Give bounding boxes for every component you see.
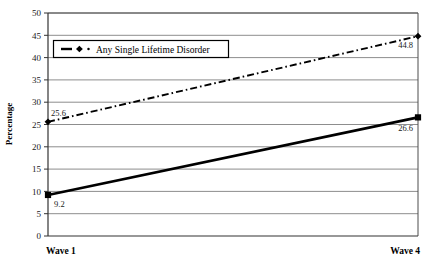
chart-canvas: 05101520253035404550 Percentage 25.6 44.…	[0, 0, 442, 268]
legend-label-any-single-lifetime-disorder: Any Single Lifetime Disorder	[96, 45, 211, 55]
y-axis-tick-label: 20	[32, 142, 42, 152]
data-label-44-8: 44.8	[398, 40, 413, 50]
y-axis-tick-label: 45	[32, 31, 42, 41]
y-axis-tick-label: 30	[32, 97, 42, 107]
x-axis-label-wave-1: Wave 1	[46, 246, 76, 256]
y-axis-ticks: 05101520253035404550	[32, 8, 48, 241]
y-axis-tick-label: 10	[32, 187, 42, 197]
data-point-marker	[45, 192, 51, 198]
data-label-26-6: 26.6	[398, 123, 413, 133]
data-point-marker	[415, 114, 421, 120]
y-axis-tick-label: 40	[32, 53, 42, 63]
x-axis-label-wave-4: Wave 4	[390, 246, 420, 256]
data-label-25-6: 25.6	[51, 108, 66, 118]
data-label-9-2: 9.2	[54, 199, 65, 209]
legend-dot-icon	[87, 48, 90, 51]
y-axis-tick-label: 15	[32, 164, 42, 174]
line-chart: 05101520253035404550 Percentage 25.6 44.…	[0, 0, 442, 268]
y-axis-tick-label: 50	[32, 8, 42, 18]
y-axis-tick-label: 25	[32, 120, 42, 130]
y-axis-title: Percentage	[4, 103, 14, 145]
y-axis-tick-label: 35	[32, 75, 42, 85]
y-axis-tick-label: 0	[37, 231, 42, 241]
legend: Any Single Lifetime Disorder	[54, 41, 229, 58]
y-axis-tick-label: 5	[37, 209, 42, 219]
